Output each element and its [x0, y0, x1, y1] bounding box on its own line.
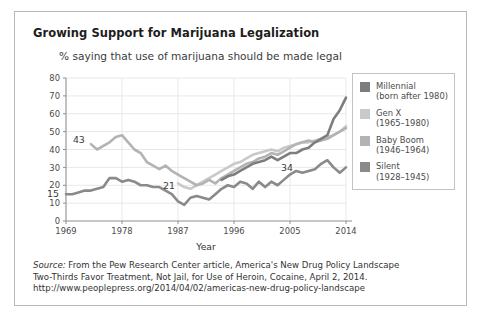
series-line-baby-boom: [91, 128, 346, 185]
y-tick-label: 10: [49, 198, 60, 208]
legend-item-label: Millennial(born after 1980): [376, 81, 448, 102]
y-tick-label: 0: [55, 216, 60, 226]
source-line-3: http://www.peoplepress.org/2014/04/02/am…: [33, 283, 453, 295]
x-tick-label: 2014: [335, 226, 356, 236]
source-note: Source: From the Pew Research Center art…: [33, 260, 453, 295]
x-tick-label: 1978: [111, 226, 132, 236]
chart-legend: Millennial(born after 1980)Gen X(1965–19…: [352, 73, 455, 190]
legend-item-millennial[interactable]: Millennial(born after 1980): [360, 81, 449, 102]
data-label-43: 43: [73, 134, 85, 145]
y-tick-label: 50: [49, 127, 60, 137]
legend-item-baby-boom[interactable]: Baby Boom(1946–1964): [360, 135, 449, 156]
data-label-21: 21: [163, 180, 175, 191]
legend-item-name: Millennial: [376, 81, 416, 91]
legend-item-sublabel: (1928–1945): [376, 172, 429, 182]
legend-item-name: Gen X: [376, 108, 401, 118]
y-tick-label: 40: [49, 145, 60, 155]
figure-frame: Growing Support for Marijuana Legalizati…: [14, 11, 467, 306]
legend-swatch-icon: [360, 109, 370, 119]
legend-swatch-icon: [360, 162, 370, 172]
legend-item-sublabel: (1946–1964): [376, 145, 429, 155]
legend-item-gen-x[interactable]: Gen X(1965–1980): [360, 108, 449, 129]
source-line-1: From the Pew Research Center article, Am…: [66, 260, 400, 270]
legend-swatch-icon: [360, 136, 370, 146]
x-tick-label: 1996: [223, 226, 244, 236]
x-tick-label: 1969: [55, 226, 76, 236]
x-axis-title: Year: [195, 241, 216, 252]
data-label-15: 15: [47, 188, 59, 199]
x-tick-label: 2005: [279, 226, 300, 236]
source-label: Source:: [33, 260, 66, 270]
legend-item-name: Baby Boom: [376, 135, 424, 145]
legend-item-label: Gen X(1965–1980): [376, 108, 429, 129]
legend-item-name: Silent: [376, 161, 400, 171]
y-tick-label: 70: [49, 91, 60, 101]
y-tick-label: 60: [49, 109, 60, 119]
x-tick-label: 1987: [167, 226, 188, 236]
data-label-34: 34: [281, 162, 293, 173]
y-tick-label: 30: [49, 163, 60, 173]
legend-swatch-icon: [360, 82, 370, 92]
legend-item-silent[interactable]: Silent(1928–1945): [360, 161, 449, 182]
legend-item-label: Baby Boom(1946–1964): [376, 135, 429, 156]
legend-item-label: Silent(1928–1945): [376, 161, 429, 182]
y-tick-label: 80: [49, 73, 60, 83]
source-line-2: Two-Thirds Favor Treatment, Not Jail, fo…: [33, 272, 453, 284]
legend-item-sublabel: (1965–1980): [376, 118, 429, 128]
legend-item-sublabel: (born after 1980): [376, 91, 448, 101]
